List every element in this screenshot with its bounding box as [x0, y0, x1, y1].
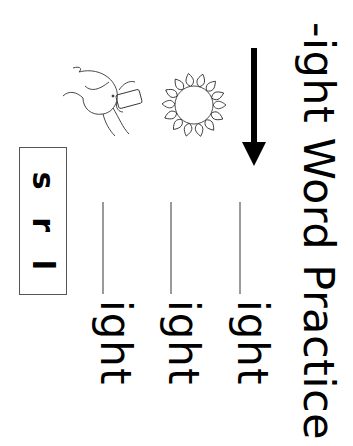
letter-option: l — [28, 260, 58, 270]
arrow-right-icon — [241, 48, 267, 166]
practice-row-3: ight — [94, 202, 134, 385]
writing-line[interactable] — [170, 202, 172, 294]
letter-option: s — [28, 172, 58, 190]
worksheet-page: -ight Word Practice — [0, 0, 353, 446]
girl-with-camera-icon — [61, 62, 149, 138]
practice-row-2: ight — [162, 202, 202, 385]
suffix-text: ight — [94, 300, 136, 385]
worksheet-title: -ight Word Practice — [293, 22, 345, 440]
letter-option: r — [28, 217, 58, 232]
writing-line[interactable] — [239, 202, 241, 294]
letter-bank: s r l — [19, 147, 67, 295]
writing-line[interactable] — [102, 202, 104, 294]
practice-row-1: ight — [231, 202, 271, 385]
suffix-text: ight — [231, 300, 273, 385]
suffix-text: ight — [162, 300, 204, 385]
sun-icon — [161, 66, 227, 144]
